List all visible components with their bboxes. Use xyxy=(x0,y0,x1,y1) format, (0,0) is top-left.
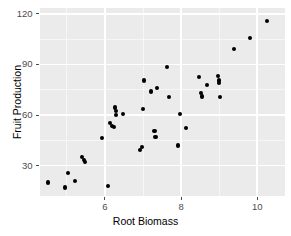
x-axis-tick-label: 8 xyxy=(161,202,201,212)
data-point xyxy=(141,107,145,111)
data-point xyxy=(184,126,188,130)
data-point xyxy=(176,143,180,147)
y-axis-tick-mark xyxy=(36,115,39,116)
data-point xyxy=(73,179,77,183)
scatter-plot-figure: Fruit Production Root Biomass 3060901206… xyxy=(0,0,291,236)
data-point xyxy=(153,135,157,139)
gridline-horizontal xyxy=(40,64,286,66)
y-axis-tick-label: 120 xyxy=(0,9,33,19)
y-axis-tick-mark xyxy=(36,13,39,14)
data-point xyxy=(152,129,156,133)
x-axis-tick-label: 6 xyxy=(85,202,125,212)
y-axis-tick-label: 60 xyxy=(0,110,33,120)
y-axis-tick-label: 30 xyxy=(0,161,33,171)
data-point xyxy=(112,125,116,129)
gridline-horizontal xyxy=(40,114,286,116)
x-axis-label: Root Biomass xyxy=(0,215,291,227)
y-axis-tick-mark xyxy=(36,165,39,166)
gridline-vertical xyxy=(256,8,258,196)
data-point xyxy=(167,95,171,99)
data-point xyxy=(142,78,146,82)
data-point xyxy=(197,75,201,79)
data-point xyxy=(149,89,153,93)
data-point xyxy=(248,36,252,40)
y-axis-tick-mark xyxy=(36,64,39,65)
data-point xyxy=(100,136,104,140)
x-axis-tick-mark xyxy=(257,197,258,200)
data-point xyxy=(205,83,209,87)
data-point xyxy=(200,94,204,98)
data-point xyxy=(46,180,50,184)
gridline-vertical xyxy=(219,8,220,196)
x-axis-tick-mark xyxy=(104,197,105,200)
data-point xyxy=(218,95,222,99)
gridline-horizontal xyxy=(40,89,286,90)
gridline-horizontal xyxy=(40,165,286,167)
data-point xyxy=(106,184,110,188)
data-point xyxy=(114,113,118,117)
data-point xyxy=(83,160,87,164)
gridline-vertical xyxy=(180,8,182,196)
gridline-horizontal xyxy=(40,140,286,141)
data-point xyxy=(66,171,70,175)
data-point xyxy=(155,86,159,90)
gridline-vertical xyxy=(143,8,144,196)
plot-panel xyxy=(40,8,286,196)
data-point xyxy=(165,65,169,69)
data-point xyxy=(217,81,221,85)
x-axis-tick-label: 10 xyxy=(237,202,277,212)
data-point xyxy=(265,19,269,23)
gridline-vertical xyxy=(66,8,67,196)
y-axis-tick-label: 90 xyxy=(0,59,33,69)
gridline-vertical xyxy=(104,8,106,196)
gridline-horizontal xyxy=(40,13,286,15)
data-point xyxy=(63,185,67,189)
y-axis-label: Fruit Production xyxy=(11,65,23,139)
x-axis-tick-mark xyxy=(181,197,182,200)
data-point xyxy=(232,47,236,51)
